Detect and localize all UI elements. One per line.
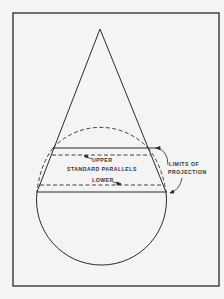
conic-projection-diagram: UPPER STANDARD PARALLELS LOWER LIMITS OF…: [0, 0, 224, 299]
label-standard-parallels: STANDARD PARALLELS: [67, 166, 137, 172]
label-projection: PROJECTION: [168, 169, 207, 175]
label-limits-of: LIMITS OF: [169, 161, 199, 167]
label-upper: UPPER: [92, 157, 112, 163]
frame-border: [13, 13, 219, 286]
globe-lower-half: [36, 192, 166, 265]
globe-dashed-upper-arc: [53, 127, 148, 148]
label-lower: LOWER: [92, 177, 114, 183]
limits-arrow-upper: [156, 148, 168, 165]
